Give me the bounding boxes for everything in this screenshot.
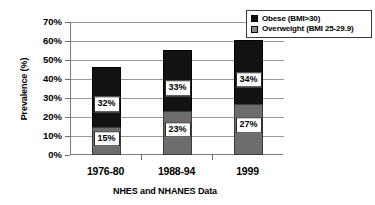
bar-segment-overweight[interactable]: 27% [234, 104, 263, 155]
bar-group[interactable]: 34%27% [234, 40, 263, 154]
y-tick-label: 0% [22, 150, 62, 160]
legend-label: Overweight (BMI 25-29.9) [262, 25, 354, 33]
y-tick-label: 40% [22, 74, 62, 84]
x-tick-mark [212, 155, 213, 160]
stacked-bar-chart: Prevalence (%) 0%10%20%30%40%50%60%70% 3… [0, 0, 375, 205]
legend-item[interactable]: Obese (BMI>30) [251, 14, 368, 24]
y-tick-label: 60% [22, 36, 62, 46]
legend-swatch-icon [251, 15, 258, 22]
bar-segment-overweight[interactable]: 23% [163, 111, 192, 155]
legend-swatch-icon [251, 26, 258, 33]
y-tick-label: 10% [22, 131, 62, 141]
plot-area: 32%15%33%23%34%27% [70, 22, 283, 155]
y-tick-label: 20% [22, 112, 62, 122]
x-axis-title: NHES and NHANES Data [40, 186, 290, 196]
bar-value-label: 33% [164, 81, 190, 97]
bar-segment-obese[interactable]: 33% [163, 50, 192, 113]
y-tick-label: 30% [22, 93, 62, 103]
x-tick-mark [141, 155, 142, 160]
bar-value-label: 27% [235, 118, 261, 134]
legend-item[interactable]: Overweight (BMI 25-29.9) [251, 24, 368, 34]
bar-group[interactable]: 32%15% [92, 67, 121, 154]
bar-value-label: 23% [164, 122, 190, 138]
bar-value-label: 15% [93, 131, 119, 147]
x-tick-label: 1999 [208, 166, 288, 177]
chart-legend: Obese (BMI>30)Overweight (BMI 25-29.9) [246, 10, 372, 38]
bar-group[interactable]: 33%23% [163, 50, 192, 154]
x-tick-label: 1988-94 [137, 166, 217, 177]
bar-segment-obese[interactable]: 32% [92, 67, 121, 128]
legend-label: Obese (BMI>30) [262, 15, 320, 23]
y-tick-label: 70% [22, 17, 62, 27]
y-tick-label: 50% [22, 55, 62, 65]
x-tick-label: 1976-80 [66, 166, 146, 177]
bar-segment-obese[interactable]: 34% [234, 40, 263, 105]
bar-segment-overweight[interactable]: 15% [92, 127, 121, 156]
bar-value-label: 34% [235, 72, 261, 88]
bar-value-label: 32% [93, 96, 119, 112]
y-tick-mark [65, 155, 70, 156]
